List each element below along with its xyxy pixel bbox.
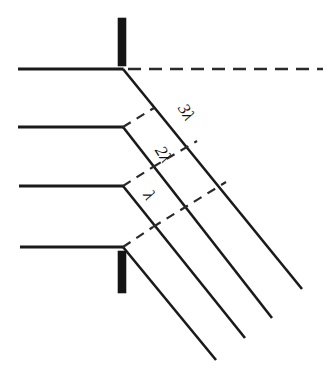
wavefront-dash-lambda-1: [123, 108, 154, 127]
diffracted-ray-1-top: [123, 69, 302, 289]
path-difference-label-3-lambda: 3λ: [174, 100, 199, 124]
path-difference-label-2-lambda: 2λ: [151, 142, 176, 166]
diffracted-ray-2: [123, 127, 272, 318]
diffracted-ray-4: [123, 247, 216, 360]
wavefront-dash-lambda-2: [123, 167, 153, 186]
wavefront-dash-lambda-3: [123, 227, 153, 247]
diffraction-diagram-figure: 3λ 2λ λ: [0, 0, 336, 374]
path-difference-label-1-lambda: λ: [139, 186, 160, 203]
diffraction-diagram-canvas: 3λ 2λ λ: [0, 0, 336, 374]
wavefront-dash-long-lower: [153, 182, 226, 227]
barrier-top: [118, 18, 126, 66]
barrier-bottom: [118, 251, 126, 293]
